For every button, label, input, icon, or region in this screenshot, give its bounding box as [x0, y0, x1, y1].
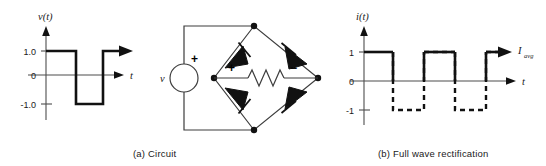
y-tick-label-1: 1.0	[23, 47, 36, 57]
diode-lower-right	[282, 87, 308, 113]
y-axis-label: i(t)	[356, 11, 369, 23]
voltage-source-label: v	[160, 73, 165, 84]
resistor-symbol	[248, 70, 284, 86]
y-tick-label-0: 0	[31, 71, 36, 81]
x-axis-arrowhead	[506, 77, 516, 85]
y-axis-arrowhead	[42, 26, 50, 36]
figure-full-wave-rectification: v(t) t 1.0 0 -1.0 v +	[0, 0, 546, 166]
panel-b-waveform: i(t) t I avg 1 0 -1 (b) Full wave rectif…	[340, 0, 546, 166]
x-axis-label: t	[130, 70, 134, 81]
iavg-arrowhead	[498, 46, 512, 57]
y-tick-label-neg1: -1	[346, 106, 354, 116]
caption-b: (b) Full wave rectification	[378, 148, 488, 159]
y-axis-label: v(t)	[38, 11, 53, 23]
caption-a: (a) Circuit	[133, 148, 176, 159]
input-voltage-plot: v(t) t 1.0 0 -1.0	[0, 0, 165, 140]
y-tick-label-0: 0	[349, 77, 354, 87]
node-top	[251, 23, 257, 29]
bridge-rectifier-circuit: v +	[158, 12, 336, 140]
load-minus-sign: −	[290, 61, 297, 75]
input-waveform-arrowhead	[119, 45, 133, 56]
rectified-current-plot: i(t) t I avg 1 0 -1	[340, 0, 546, 140]
source-plus-sign: +	[191, 52, 198, 66]
input-square-waveform	[46, 51, 120, 104]
load-plus-sign: +	[228, 61, 235, 75]
y-tick-label-neg1: -1.0	[20, 100, 36, 110]
iavg-label: I	[517, 45, 522, 56]
y-axis-arrowhead	[360, 26, 368, 36]
voltage-source-symbol	[170, 64, 198, 92]
x-axis-label: t	[522, 76, 526, 87]
iavg-subscript: avg	[524, 52, 534, 59]
x-axis-arrowhead	[114, 71, 124, 79]
y-tick-label-1: 1	[349, 48, 354, 58]
node-bottom	[251, 127, 257, 133]
panel-a-circuit: v(t) t 1.0 0 -1.0 v +	[0, 0, 340, 166]
